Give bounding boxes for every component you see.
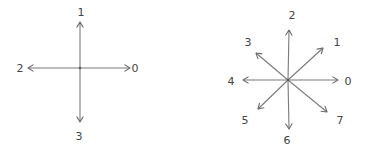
- direction-label-0: 0: [132, 62, 139, 75]
- arrow-shaft-7: [288, 80, 327, 112]
- arrow-shaft-2: [288, 30, 289, 80]
- eight-direction-diagram: 01234567: [228, 9, 352, 147]
- arrow-shaft-6: [288, 80, 289, 129]
- origin-point: [287, 79, 289, 81]
- direction-label-1: 1: [78, 6, 85, 19]
- direction-label-6: 6: [284, 134, 291, 147]
- direction-label-2: 2: [17, 62, 24, 75]
- direction-label-5: 5: [242, 114, 249, 127]
- chain-code-diagrams: 0123 01234567: [0, 0, 369, 151]
- origin-point: [79, 67, 81, 69]
- four-direction-diagram: 0123: [17, 6, 139, 143]
- arrow-shaft-3: [256, 53, 288, 80]
- arrow-shaft-1: [288, 48, 323, 80]
- direction-label-3: 3: [76, 130, 83, 143]
- direction-label-2: 2: [289, 9, 296, 22]
- direction-label-1: 1: [334, 36, 341, 49]
- direction-label-3: 3: [245, 36, 252, 49]
- direction-label-4: 4: [228, 75, 235, 88]
- direction-label-0: 0: [345, 75, 352, 88]
- direction-label-7: 7: [337, 114, 344, 127]
- arrow-shaft-5: [258, 80, 288, 109]
